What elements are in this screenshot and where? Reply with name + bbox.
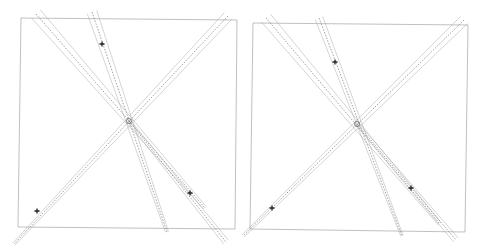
epipolar-line-bound (323, 17, 403, 236)
epipolar-line-bound (13, 13, 224, 243)
epipolar-line-bound (130, 120, 228, 240)
epipolar-line-center (357, 124, 456, 240)
epipolar-line-bound (244, 24, 467, 237)
right-view-panel (242, 14, 468, 242)
epipolar-line-center (243, 20, 464, 236)
epipolar-line-center (129, 121, 226, 242)
epipolar-line-bound (128, 122, 224, 244)
epipolar-line-bound (242, 16, 461, 235)
stereo-epipolar-diagram (0, 0, 479, 251)
epipolar-line-bound (87, 14, 165, 233)
epipolar-line-bound (271, 14, 442, 223)
epipolar-line-bound (97, 10, 169, 231)
left-view-panel (13, 10, 237, 245)
epipolar-line-bound (15, 19, 232, 245)
epipolar-line-bound (31, 18, 203, 209)
epipolar-line-bound (41, 10, 207, 207)
point-marker-icon (409, 186, 414, 191)
epipolar-line-center (14, 16, 228, 244)
epipolar-line-center (36, 14, 205, 208)
epipolar-line-center (266, 18, 440, 224)
point-marker-icon (100, 42, 105, 47)
epipolar-line-bound (356, 125, 454, 242)
epipolar-line-center (319, 18, 402, 236)
point-marker-icon (35, 209, 40, 214)
epipolar-line-bound (358, 123, 458, 238)
